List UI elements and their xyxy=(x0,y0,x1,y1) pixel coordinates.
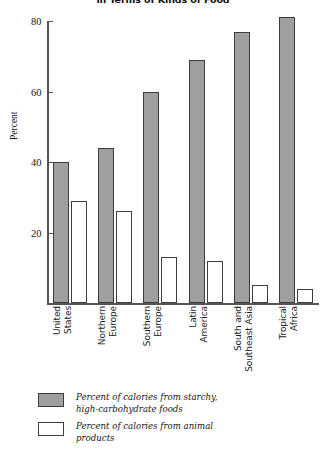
x-label-3-line1: Southern xyxy=(142,306,153,346)
x-label-2-line2: Europe xyxy=(108,306,119,337)
bar-animal-2 xyxy=(116,211,132,303)
legend-swatch-hollow xyxy=(38,422,64,436)
legend-label-starchy-line1: Percent of calories from starchy, xyxy=(76,392,217,402)
legend-label-animal-line2: products xyxy=(76,433,213,445)
bars-layer xyxy=(47,14,319,304)
legend-item-animal: Percent of calories from animal products xyxy=(38,421,308,444)
bar-animal-4 xyxy=(207,261,223,303)
bar-animal-3 xyxy=(161,257,177,303)
x-label-1: UnitedStates xyxy=(52,306,78,396)
bar-starchy-3 xyxy=(143,92,159,304)
legend-swatch-filled xyxy=(38,393,64,407)
plot-area: 20406080 Percent xyxy=(47,14,319,304)
y-axis-title: Percent xyxy=(9,112,19,141)
bar-chart: in Terms of Kinds of Food 20406080 Perce… xyxy=(0,0,326,449)
x-label-1-line1: United xyxy=(52,306,63,335)
y-tick-label-40: 40 xyxy=(31,157,42,168)
legend-label-animal: Percent of calories from animal products xyxy=(76,421,213,444)
legend-label-animal-line1: Percent of calories from animal xyxy=(76,421,213,431)
x-label-4-line2: America xyxy=(199,306,210,342)
x-label-4: LatinAmerica xyxy=(188,306,214,396)
y-tick-label-60: 60 xyxy=(31,86,42,97)
x-label-3-line2: Europe xyxy=(153,306,164,337)
bar-animal-1 xyxy=(71,201,87,303)
bar-starchy-2 xyxy=(98,148,114,303)
x-label-2: NorthernEurope xyxy=(97,306,123,396)
x-label-5-line1: South and xyxy=(233,306,244,351)
x-label-6-line1: Tropical xyxy=(278,306,289,340)
x-label-4-line1: Latin xyxy=(188,306,199,328)
x-label-6: TropicalAfrica xyxy=(278,306,304,396)
y-tick-label-80: 80 xyxy=(31,16,42,27)
x-label-6-line2: Africa xyxy=(289,306,300,331)
bar-animal-5 xyxy=(252,285,268,303)
bar-starchy-1 xyxy=(53,162,69,303)
legend-label-starchy: Percent of calories from starchy, high-c… xyxy=(76,392,217,415)
legend-item-starchy: Percent of calories from starchy, high-c… xyxy=(38,392,308,415)
x-label-2-line1: Northern xyxy=(97,306,108,345)
y-tick-label-20: 20 xyxy=(31,227,42,238)
chart-title: in Terms of Kinds of Food xyxy=(0,0,326,7)
x-label-3: SouthernEurope xyxy=(142,306,168,396)
bar-animal-6 xyxy=(297,289,313,303)
x-label-1-line2: States xyxy=(63,306,74,334)
legend: Percent of calories from starchy, high-c… xyxy=(38,392,308,449)
legend-label-starchy-line2: high-carbohydrate foods xyxy=(76,404,217,416)
x-label-5-line2: Southeast Asia xyxy=(244,306,255,372)
bar-starchy-5 xyxy=(234,32,250,303)
x-label-5: South andSoutheast Asia xyxy=(233,306,259,396)
x-axis-labels: UnitedStatesNorthernEuropeSouthernEurope… xyxy=(47,306,319,396)
bar-starchy-4 xyxy=(189,60,205,303)
bar-starchy-6 xyxy=(279,17,295,303)
